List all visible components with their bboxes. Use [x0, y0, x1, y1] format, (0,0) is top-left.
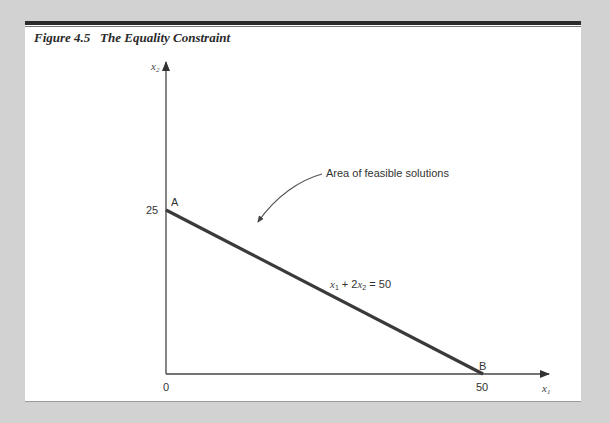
x-tick-50: 50: [476, 381, 488, 393]
point-a-label: A: [171, 196, 179, 208]
y-tick-25: 25: [146, 204, 158, 216]
annotation-arrow: [258, 174, 322, 222]
y-axis-label: x2: [150, 60, 160, 74]
constraint-line: [166, 210, 483, 374]
chart: x2 x1 25 0 50 A B Area of feasible solut…: [0, 0, 610, 423]
point-b-label: B: [479, 360, 486, 372]
annotation-text: Area of feasible solutions: [326, 167, 449, 179]
equation-label: x1 + 2x2 = 50: [329, 278, 391, 291]
x-axis-label: x1: [541, 382, 550, 396]
origin-label: 0: [163, 381, 169, 393]
